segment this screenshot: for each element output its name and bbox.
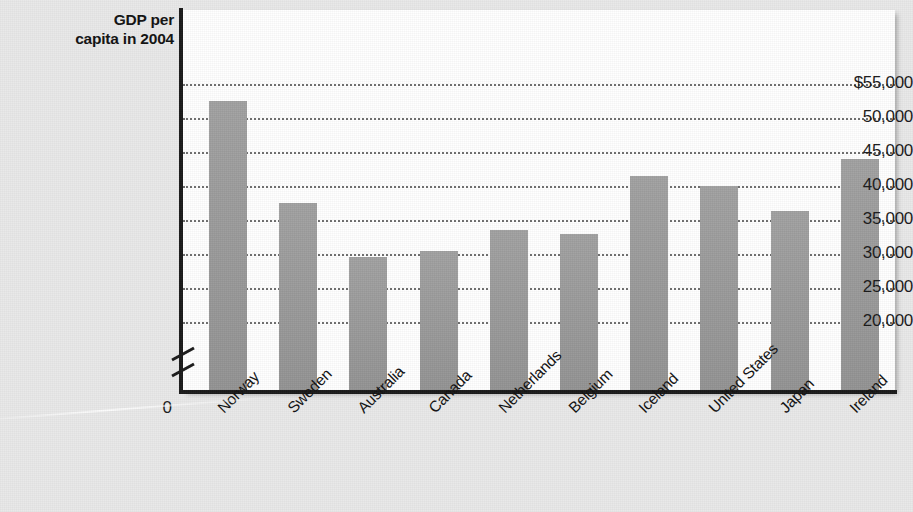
bar[interactable] xyxy=(209,101,247,392)
y-axis-line xyxy=(179,8,183,394)
y-axis-tick-label: 50,000 xyxy=(741,107,913,127)
bar[interactable] xyxy=(700,186,738,392)
y-axis-tick-label: 25,000 xyxy=(741,277,913,297)
bar[interactable] xyxy=(279,203,317,392)
y-axis-tick-label: 45,000 xyxy=(741,141,913,161)
bar[interactable] xyxy=(349,257,387,392)
bar[interactable] xyxy=(490,230,528,392)
y-axis-tick-label: 20,000 xyxy=(741,311,913,331)
axis-break-icon xyxy=(168,346,198,380)
bar[interactable] xyxy=(771,211,809,392)
y-axis-tick-label: 40,000 xyxy=(741,175,913,195)
y-axis-title: GDP per capita in 2004 xyxy=(8,10,174,48)
y-axis-title-line2: capita in 2004 xyxy=(8,29,174,48)
y-axis-tick-label: 30,000 xyxy=(741,243,913,263)
bar[interactable] xyxy=(630,176,668,392)
bar[interactable] xyxy=(560,234,598,392)
y-axis-tick-label: 35,000 xyxy=(741,209,913,229)
y-axis-title-line1: GDP per xyxy=(8,10,174,29)
plot-area xyxy=(183,10,895,392)
gdp-per-capita-bar-chart: GDP per capita in 2004 0 $55,00050,00045… xyxy=(0,0,913,512)
chart-title xyxy=(150,0,890,2)
y-axis-tick-label: $55,000 xyxy=(741,73,913,93)
bar[interactable] xyxy=(420,251,458,392)
